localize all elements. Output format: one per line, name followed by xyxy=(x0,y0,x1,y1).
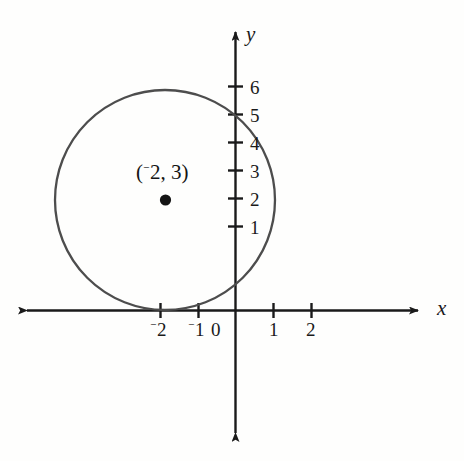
x-tick-label--2: ⁻2 xyxy=(150,320,167,339)
y-axis-label: y xyxy=(246,24,255,45)
x-tick-label-1: 1 xyxy=(269,320,279,339)
minus-superscript-icon: ⁻ xyxy=(188,319,195,334)
coordinate-plane-svg xyxy=(0,0,464,461)
y-tick-label-1: 1 xyxy=(250,218,260,237)
minus-superscript-icon: ⁻ xyxy=(143,162,150,177)
y-tick-label-5: 5 xyxy=(250,106,260,125)
minus-superscript-icon: ⁻ xyxy=(150,319,157,334)
y-tick-label-6: 6 xyxy=(250,78,260,97)
origin-label: 0 xyxy=(211,320,221,339)
center-point-marker xyxy=(160,194,171,205)
x-tick-label--1: ⁻1 xyxy=(188,320,205,339)
x-tick-label-2: 2 xyxy=(306,320,316,339)
y-tick-label-2: 2 xyxy=(250,190,260,209)
circle-graph-figure: y x ⁻2 ⁻1 0 1 2 1 2 3 4 5 6 (⁻2, 3) xyxy=(0,0,464,461)
x-axis-label: x xyxy=(437,298,446,319)
center-point-label: (⁻2, 3) xyxy=(136,162,189,183)
y-tick-label-3: 3 xyxy=(250,162,260,181)
y-tick-label-4: 4 xyxy=(250,134,260,153)
